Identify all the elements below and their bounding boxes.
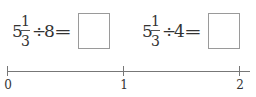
tick-label-1: 1 — [118, 79, 130, 91]
fraction-bar — [151, 30, 160, 31]
tick-mark-2 — [239, 66, 240, 76]
tick-label-0: 0 — [2, 79, 14, 91]
equals-sign: = — [184, 23, 202, 40]
answer-input-box[interactable] — [78, 13, 110, 49]
numerator: 1 — [151, 14, 160, 28]
fraction: 1 3 — [21, 14, 30, 48]
denominator: 3 — [151, 34, 160, 48]
numerator: 1 — [21, 14, 30, 28]
fraction-bar — [21, 30, 30, 31]
number-line-axis — [7, 71, 250, 72]
denominator: 3 — [21, 34, 30, 48]
fraction: 1 3 — [151, 14, 160, 48]
equals-sign: = — [54, 23, 72, 40]
tick-mark-0 — [7, 66, 8, 76]
division-problem-2: 5 1 3 ÷ 4 = — [130, 13, 250, 51]
answer-input-box[interactable] — [208, 13, 240, 49]
division-problem-1: 5 1 3 ÷ 8 = — [0, 13, 120, 51]
tick-label-2: 2 — [234, 79, 246, 91]
tick-mark-1 — [123, 66, 124, 76]
